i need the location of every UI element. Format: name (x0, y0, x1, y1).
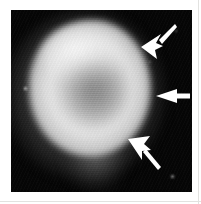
arrow-middle-label: middle arrow (0, 0, 1, 1)
speck-mid-right (149, 61, 151, 63)
figure-page: bright rounded uptake mass with photopen… (0, 0, 201, 204)
arrow-lower-label: lower arrow (0, 0, 1, 1)
page-edge-right (198, 0, 199, 204)
lesion-photopenic-core (65, 62, 127, 124)
scan-image-frame (11, 10, 192, 192)
speck-upper-right (175, 30, 177, 32)
speck-lower-right (171, 175, 174, 178)
arrow-middle-icon (156, 89, 190, 103)
arrow-upper-icon (141, 24, 177, 59)
arrow-upper-label: upper arrow (0, 0, 1, 1)
page-edge-bottom (0, 201, 201, 202)
speck-left (24, 87, 27, 90)
arrow-lower-icon (128, 136, 161, 170)
lesion-label: bright rounded uptake mass with photopen… (0, 0, 1, 1)
figure-caption (0, 0, 1, 1)
